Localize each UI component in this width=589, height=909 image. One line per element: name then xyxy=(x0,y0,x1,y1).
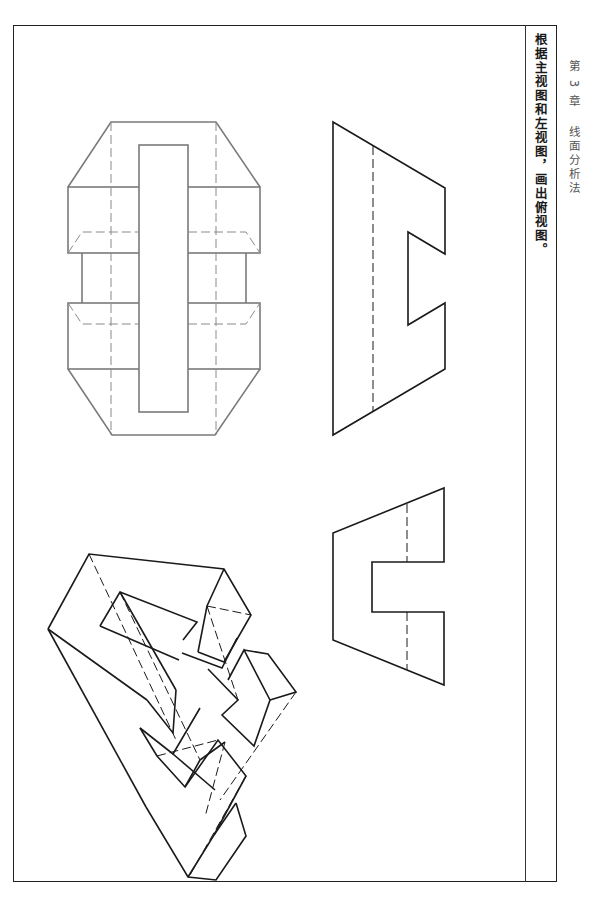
isometric-view xyxy=(48,554,296,880)
top-view xyxy=(68,122,260,435)
left-view xyxy=(333,488,444,685)
drawing-canvas xyxy=(0,0,589,909)
front-view xyxy=(333,122,445,435)
